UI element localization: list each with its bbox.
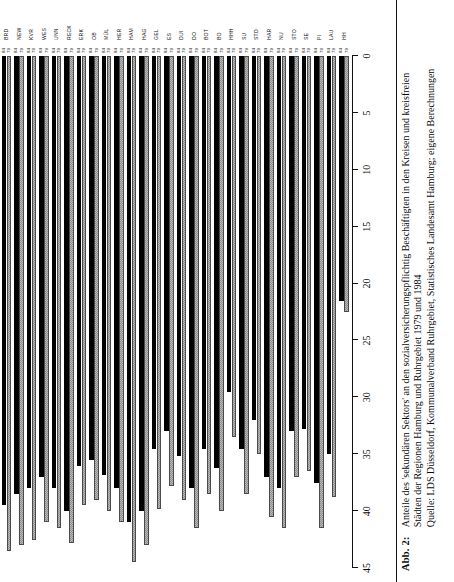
bar-1979: [44, 56, 49, 522]
year-label-1984: 84: [313, 48, 318, 53]
bar-group: 8479PI: [313, 0, 326, 582]
bar-1984: [139, 56, 144, 511]
bar-1979: [157, 56, 162, 509]
bar-group: 8479BOT: [200, 0, 213, 582]
year-label-1979: 79: [69, 48, 74, 53]
axis-tick-label: 35: [361, 449, 372, 459]
bar-1979: [207, 56, 212, 494]
axis-tick: [352, 55, 358, 56]
bar-1984: [114, 56, 119, 488]
grouped-bar-chart: 8479BRD8479NEW8479KVR8479WES8479UNN8479R…: [0, 0, 396, 582]
category-label: DUI: [178, 31, 184, 40]
caption-line-2: Städten der Regionen Hamburg und Ruhrgeb…: [412, 69, 424, 528]
year-label-1979: 79: [156, 48, 161, 53]
bar-1979: [269, 56, 274, 517]
axis-tick: [352, 510, 358, 511]
bar-1979: [94, 56, 99, 500]
bars-container: 8479BRD8479NEW8479KVR8479WES8479UNN8479R…: [0, 0, 350, 582]
category-label: OB: [91, 32, 97, 40]
axis-tick-label: 5: [361, 110, 372, 115]
category-label: HER: [116, 29, 122, 40]
year-label-1979: 79: [244, 48, 249, 53]
year-label-1979: 79: [344, 48, 349, 53]
bar-1984: [202, 56, 207, 449]
bar-1979: [332, 56, 337, 497]
year-label-1979: 79: [206, 48, 211, 53]
year-label-1984: 84: [113, 48, 118, 53]
category-label: STD: [253, 29, 259, 40]
bar-1979: [182, 56, 187, 500]
bar-1979: [82, 56, 87, 505]
axis-tick-label: 25: [361, 335, 372, 345]
chart-plot-area: 8479BRD8479NEW8479KVR8479WES8479UNN8479R…: [0, 0, 396, 582]
year-label-1979: 79: [194, 48, 199, 53]
bar-1979: [57, 56, 62, 528]
axis-tick-label: 0: [361, 54, 372, 59]
bar-group: 8479ERK: [75, 0, 88, 582]
bar-group: 8479HAG: [138, 0, 151, 582]
bar-1984: [214, 56, 219, 468]
bar-1979: [144, 56, 149, 545]
bar-1984: [89, 56, 94, 460]
bar-1984: [14, 56, 19, 494]
bar-1984: [289, 56, 294, 431]
year-label-1984: 84: [126, 48, 131, 53]
bar-1984: [27, 56, 32, 488]
axis-tick-label: 15: [361, 222, 372, 232]
category-label: STO: [291, 29, 297, 40]
axis-tick: [352, 339, 358, 340]
bar-group: 8479NU: [275, 0, 288, 582]
year-label-1979: 79: [94, 48, 99, 53]
category-label: HAG: [141, 28, 147, 40]
year-label-1979: 79: [106, 48, 111, 53]
bar-group: 8479HH: [338, 0, 351, 582]
bar-1979: [307, 56, 312, 471]
bar-1984: [64, 56, 69, 511]
bar-1984: [164, 56, 169, 431]
axis-tick: [352, 112, 358, 113]
year-label-1979: 79: [331, 48, 336, 53]
year-label-1979: 79: [281, 48, 286, 53]
bar-1979: [257, 56, 262, 454]
year-label-1984: 84: [326, 48, 331, 53]
bar-1984: [127, 56, 132, 522]
category-label: HH: [341, 32, 347, 40]
axis-line: [352, 56, 353, 568]
caption-text: Anteile des 'sekundären Sektors' an den …: [400, 69, 437, 528]
bar-1979: [7, 56, 12, 551]
caption-line-3: Quelle: LDS Düsseldorf, Kommunalverband …: [424, 69, 436, 528]
year-label-1984: 84: [251, 48, 256, 53]
year-label-1984: 84: [301, 48, 306, 53]
year-label-1984: 84: [226, 48, 231, 53]
bar-1979: [69, 56, 74, 543]
year-label-1984: 84: [163, 48, 168, 53]
category-label: UNN: [53, 28, 59, 40]
axis-tick: [352, 283, 358, 284]
year-label-1984: 84: [63, 48, 68, 53]
bar-1979: [319, 56, 324, 528]
bar-1984: [302, 56, 307, 429]
year-label-1979: 79: [219, 48, 224, 53]
bar-group: 8479STO: [288, 0, 301, 582]
bar-group: 8479HER: [113, 0, 126, 582]
year-label-1984: 84: [51, 48, 56, 53]
year-label-1979: 79: [294, 48, 299, 53]
category-label: HAM: [128, 28, 134, 40]
bar-1984: [2, 56, 7, 505]
bar-1984: [152, 56, 157, 449]
bar-group: 8479BO: [213, 0, 226, 582]
year-label-1984: 84: [151, 48, 156, 53]
bar-1984: [52, 56, 57, 488]
bar-1984: [277, 56, 282, 488]
category-label: MÜL: [103, 29, 109, 40]
bar-1979: [169, 56, 174, 486]
bar-1984: [77, 56, 82, 466]
bar-1979: [19, 56, 24, 545]
year-label-1984: 84: [88, 48, 93, 53]
axis-tick: [352, 453, 358, 454]
year-label-1984: 84: [76, 48, 81, 53]
year-label-1979: 79: [119, 48, 124, 53]
bar-group: 8479OB: [88, 0, 101, 582]
category-label: DO: [191, 32, 197, 40]
axis-tick-label: 40: [361, 506, 372, 516]
